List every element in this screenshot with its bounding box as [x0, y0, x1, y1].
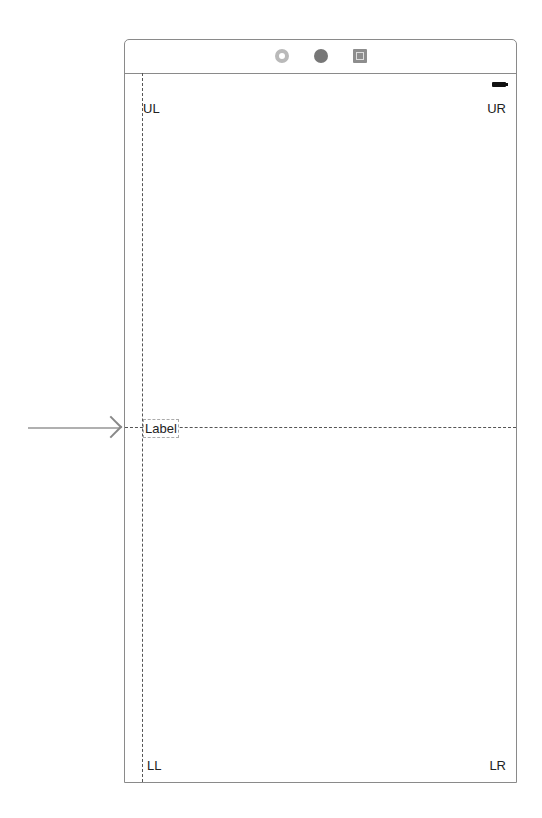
scene-dock[interactable] [125, 40, 516, 74]
label-center[interactable]: Label [143, 419, 179, 438]
first-responder-icon[interactable] [314, 49, 328, 63]
view-controller-scene[interactable]: UL UR LL LR Label [124, 39, 517, 783]
exit-icon[interactable] [353, 49, 367, 63]
label-upper-right[interactable]: UR [487, 101, 506, 116]
entry-point-arrow-icon[interactable] [100, 416, 123, 439]
label-lower-left[interactable]: LL [147, 758, 161, 773]
label-lower-right[interactable]: LR [489, 758, 506, 773]
center-y-guide-line [125, 427, 516, 428]
battery-icon [492, 82, 506, 87]
view-controller-icon[interactable] [275, 49, 289, 63]
label-upper-left[interactable]: UL [143, 101, 160, 116]
